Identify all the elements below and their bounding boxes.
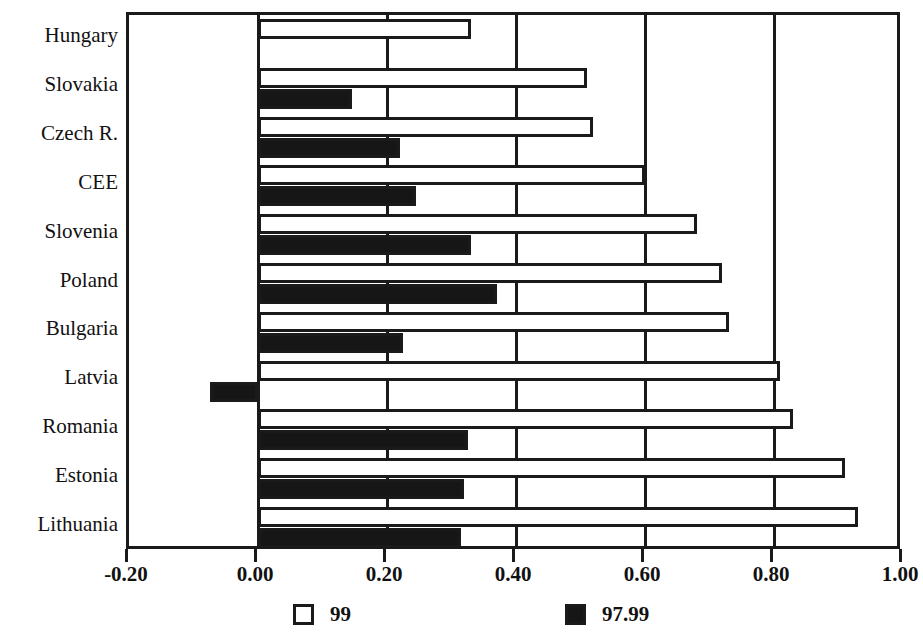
axis-tick xyxy=(899,549,902,562)
white-square-icon xyxy=(293,604,314,625)
legend-entry[interactable]: 97.99 xyxy=(565,600,649,628)
bar-series-99 xyxy=(258,263,722,283)
bar-series-9799 xyxy=(258,430,468,450)
bar-series-99 xyxy=(258,361,780,381)
category-label: Estonia xyxy=(0,465,118,486)
x-tick-label: -0.20 xyxy=(66,562,186,586)
black-square-icon xyxy=(565,604,586,625)
category-label: Czech R. xyxy=(0,123,118,144)
bar-series-99 xyxy=(258,409,793,429)
bar-series-9799 xyxy=(258,284,497,304)
axis-tick xyxy=(383,549,386,562)
legend-label: 97.99 xyxy=(602,604,649,625)
x-tick-label: 0.00 xyxy=(195,562,315,586)
bar-series-9799 xyxy=(258,333,403,353)
category-axis-labels: HungarySlovakiaCzech R.CEESloveniaPoland… xyxy=(0,12,118,549)
legend-label: 99 xyxy=(330,604,351,625)
category-label: Romania xyxy=(0,416,118,437)
bar-series-9799 xyxy=(258,235,471,255)
category-label: Slovakia xyxy=(0,74,118,95)
bar-series-99 xyxy=(258,214,697,234)
bar-series-9799 xyxy=(258,479,464,499)
x-tick-label: 1.00 xyxy=(840,562,923,586)
category-label: Hungary xyxy=(0,25,118,46)
bar-series-9799 xyxy=(210,382,258,402)
bar-series-99 xyxy=(258,312,729,332)
bar-series-9799 xyxy=(258,186,416,206)
category-label: Lithuania xyxy=(0,514,118,535)
x-tick-label: 0.40 xyxy=(453,562,573,586)
legend-entry[interactable]: 99 xyxy=(293,600,351,628)
bar-series-99 xyxy=(258,68,587,88)
bar-series-99 xyxy=(258,507,858,527)
axis-tick xyxy=(512,549,515,562)
category-label: Slovenia xyxy=(0,221,118,242)
axis-tick xyxy=(641,549,644,562)
bar-series-9799 xyxy=(258,138,400,158)
x-tick-label: 0.80 xyxy=(711,562,831,586)
category-label: Bulgaria xyxy=(0,318,118,339)
chart-legend: 9997.99 xyxy=(0,600,915,632)
x-tick-label: 0.60 xyxy=(582,562,702,586)
axis-tick xyxy=(770,549,773,562)
plot-inner xyxy=(129,15,897,546)
bar-series-99 xyxy=(258,117,593,137)
x-axis-tick-labels: -0.200.000.200.400.600.801.00 xyxy=(0,562,915,590)
axis-tick xyxy=(125,549,128,562)
category-label: Poland xyxy=(0,270,118,291)
category-label: Latvia xyxy=(0,367,118,388)
bar-series-9799 xyxy=(258,528,461,548)
bar-series-99 xyxy=(258,165,645,185)
bar-series-99 xyxy=(258,19,471,39)
category-label: CEE xyxy=(0,172,118,193)
x-tick-label: 0.20 xyxy=(324,562,444,586)
axis-tick xyxy=(254,549,257,562)
bar-series-9799 xyxy=(258,89,352,109)
bar-series-99 xyxy=(258,458,845,478)
plot-area xyxy=(126,12,900,549)
